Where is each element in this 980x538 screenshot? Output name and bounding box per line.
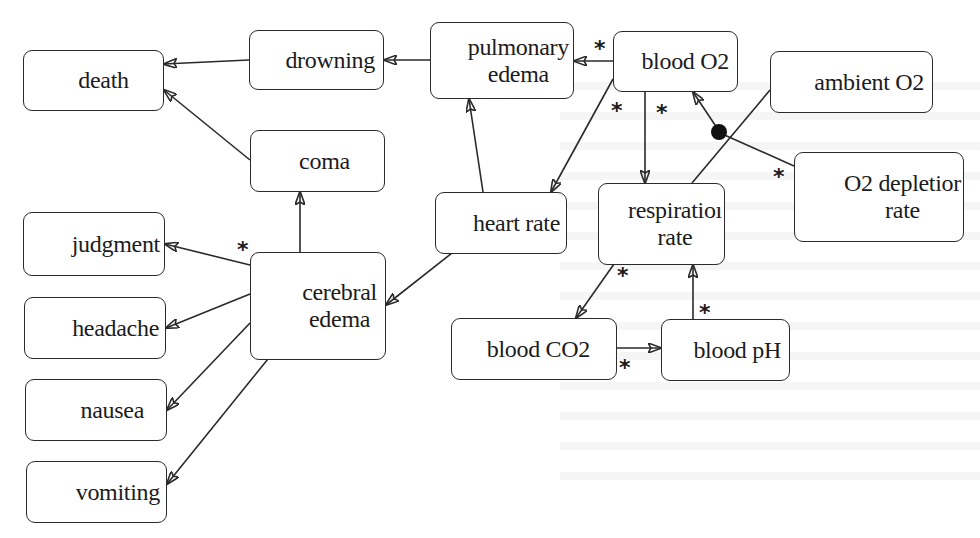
- junction-dot: [711, 124, 727, 140]
- node-label: ambient O2: [814, 69, 924, 96]
- node-headache[interactable]: headache: [24, 297, 166, 359]
- node-label: death: [78, 67, 128, 94]
- edge-heart-rate-pulmonary-edema: [469, 99, 483, 192]
- node-label: pulmonary edema: [468, 34, 569, 88]
- node-death[interactable]: death: [23, 50, 164, 111]
- star-marker-blood-o2-respiration: *: [656, 102, 668, 124]
- node-blood-ph[interactable]: blood pH: [661, 319, 790, 381]
- node-nausea[interactable]: nausea: [25, 379, 167, 441]
- node-respiration-rate[interactable]: respiratioı rate: [598, 183, 725, 265]
- node-label: vomiting: [76, 479, 160, 506]
- node-ambient-o2[interactable]: ambient O2: [770, 51, 933, 113]
- node-label: headache: [72, 315, 159, 342]
- node-label: respiratioı rate: [628, 197, 722, 251]
- node-o2-depletion-rate[interactable]: O2 depletior rate: [794, 152, 964, 242]
- node-label: coma: [299, 148, 350, 175]
- node-pulmonary-edema[interactable]: pulmonary edema: [430, 22, 574, 99]
- node-label: cerebral edema: [302, 279, 377, 333]
- node-blood-o2[interactable]: blood O2: [613, 31, 738, 92]
- node-label: heart rate: [473, 210, 560, 237]
- edge-drowning-death: [164, 60, 249, 64]
- node-label: blood CO2: [487, 336, 590, 363]
- node-cerebral-edema[interactable]: cerebral edema: [250, 252, 386, 360]
- star-marker-blood-o2-pulmonary: *: [594, 38, 606, 60]
- edge-cerebral-edema-headache: [166, 294, 250, 328]
- node-judgment[interactable]: judgment: [23, 212, 165, 276]
- node-coma[interactable]: coma: [250, 130, 385, 192]
- star-marker-cerebral-judgment: *: [237, 239, 249, 261]
- star-marker-respiration-blood-co2: *: [617, 265, 629, 287]
- node-drowning[interactable]: drowning: [249, 30, 384, 90]
- edge-respiration-rate-blood-co2: [576, 264, 614, 318]
- star-marker-blood-co2-blood-ph: *: [619, 357, 631, 379]
- edge-heart-rate-cerebral-edema: [386, 253, 452, 305]
- node-label: drowning: [285, 47, 375, 74]
- star-marker-blood-ph-respiration: *: [699, 302, 711, 324]
- edge-cerebral-edema-vomiting: [167, 359, 268, 484]
- edge-coma-death: [164, 90, 250, 160]
- edge-o2-depletion-junction: [720, 133, 794, 166]
- node-heart-rate[interactable]: heart rate: [435, 192, 567, 254]
- star-marker-blood-o2-heart-rate: *: [611, 100, 623, 122]
- node-label: blood pH: [693, 337, 781, 364]
- node-label: O2 depletior rate: [844, 170, 961, 224]
- node-label: nausea: [81, 397, 145, 424]
- node-blood-co2[interactable]: blood CO2: [451, 318, 617, 380]
- node-vomiting[interactable]: vomiting: [26, 461, 167, 523]
- edge-ambient-o2-line: [692, 90, 770, 183]
- node-label: judgment: [72, 231, 160, 258]
- node-label: blood O2: [641, 48, 729, 75]
- star-marker-o2-depletion: *: [773, 166, 785, 188]
